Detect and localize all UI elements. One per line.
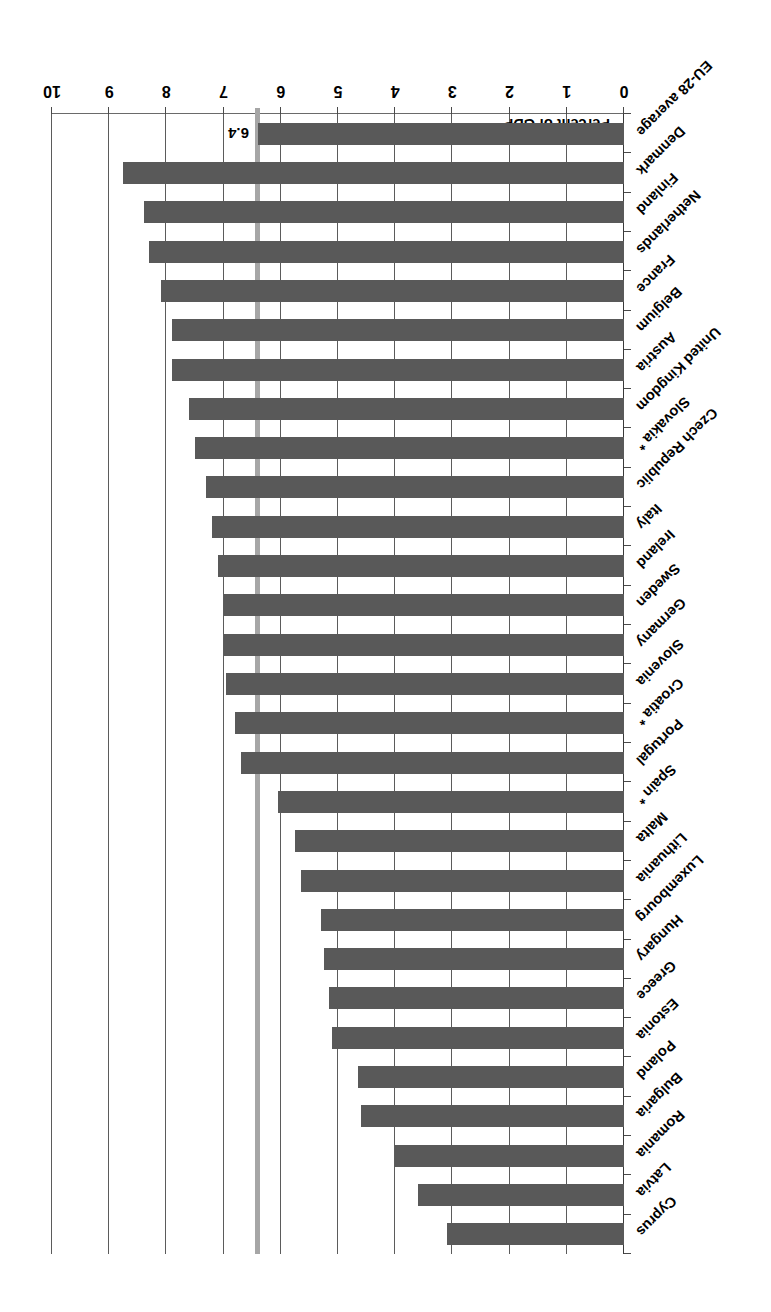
- bar: [149, 241, 624, 263]
- bar: [124, 162, 625, 184]
- value-axis-tick: [337, 107, 338, 114]
- bar: [332, 1027, 624, 1049]
- bar: [395, 1145, 624, 1167]
- bar: [358, 1066, 624, 1088]
- bar: [161, 280, 624, 302]
- value-axis-tick: [51, 107, 52, 114]
- rotated-figure-canvas: 012345678910 CyprusLatviaRomaniaBulgaria…: [0, 0, 771, 1312]
- eu-average-value-label: 6.4: [228, 125, 249, 142]
- value-axis-tick: [509, 107, 510, 114]
- value-axis-tick-label: 9: [94, 82, 124, 100]
- bar: [224, 634, 624, 656]
- bar: [218, 555, 624, 577]
- category-axis-tick: [624, 821, 631, 822]
- value-axis-tick-label: 7: [209, 82, 239, 100]
- category-label: Estonia: [633, 995, 681, 1043]
- bar: [324, 948, 624, 970]
- value-axis-tick-label: 2: [495, 82, 525, 100]
- value-axis-tick: [566, 107, 567, 114]
- bar: [212, 516, 624, 538]
- bar: [189, 398, 624, 420]
- category-axis-tick: [624, 899, 631, 900]
- bar: [172, 359, 624, 381]
- category-axis-tick: [624, 703, 631, 704]
- category-axis-tick: [624, 1174, 631, 1175]
- category-axis-tick: [624, 939, 631, 940]
- bar-chart-figure: 012345678910 CyprusLatviaRomaniaBulgaria…: [0, 0, 771, 1312]
- category-label: Italy: [633, 501, 665, 533]
- category-axis-tick: [624, 270, 631, 271]
- gridline: [108, 114, 109, 1254]
- value-axis-tick: [108, 107, 109, 114]
- category-axis-tick: [624, 781, 631, 782]
- category-axis-tick: [624, 152, 631, 153]
- value-axis-tick-label: 0: [609, 82, 639, 100]
- value-axis-tick-label: 10: [37, 82, 67, 100]
- category-axis-tick: [624, 113, 631, 114]
- category-axis-tick: [624, 1253, 631, 1254]
- category-axis-tick: [624, 388, 631, 389]
- bar: [226, 673, 624, 695]
- category-axis-tick: [624, 231, 631, 232]
- category-axis-tick: [624, 467, 631, 468]
- bar: [241, 752, 624, 774]
- category-label: Spain *: [633, 762, 679, 808]
- value-axis-tick: [394, 107, 395, 114]
- value-axis-tick: [165, 107, 166, 114]
- category-axis-tick: [624, 663, 631, 664]
- bar: [144, 201, 624, 223]
- bar: [206, 476, 624, 498]
- value-axis-tick-label: 4: [380, 82, 410, 100]
- value-axis-tick-label: 5: [323, 82, 353, 100]
- bar: [278, 791, 624, 813]
- value-axis-tick: [223, 107, 224, 114]
- value-axis-tick-label: 8: [151, 82, 181, 100]
- category-axis-tick: [624, 427, 631, 428]
- category-axis-tick: [624, 742, 631, 743]
- category-axis-tick: [624, 1135, 631, 1136]
- category-axis-tick: [624, 349, 631, 350]
- category-label: Cyprus: [633, 1193, 680, 1240]
- value-axis-tick: [451, 107, 452, 114]
- category-axis-tick: [624, 1017, 631, 1018]
- bar: [418, 1184, 624, 1206]
- bar: [172, 319, 624, 341]
- category-axis-tick: [624, 1056, 631, 1057]
- value-axis-tick-label: 1: [552, 82, 582, 100]
- bar: [295, 830, 624, 852]
- bar: [195, 437, 624, 459]
- gridline: [51, 114, 52, 1254]
- bar: [258, 123, 624, 145]
- category-axis-tick: [624, 310, 631, 311]
- category-axis-tick: [624, 545, 631, 546]
- category-axis-tick: [624, 978, 631, 979]
- value-axis-tick-label: 3: [437, 82, 467, 100]
- category-axis-tick: [624, 624, 631, 625]
- category-axis-tick: [624, 506, 631, 507]
- bar: [224, 594, 624, 616]
- category-axis-tick: [624, 192, 631, 193]
- bar: [447, 1223, 624, 1245]
- category-axis-tick: [624, 860, 631, 861]
- value-axis-tick-label: 6: [266, 82, 296, 100]
- category-axis-tick: [624, 585, 631, 586]
- category-axis-tick: [624, 1096, 631, 1097]
- value-axis-tick: [280, 107, 281, 114]
- bar: [329, 987, 624, 1009]
- bar: [361, 1105, 624, 1127]
- bar: [235, 712, 624, 734]
- bar: [321, 909, 624, 931]
- category-axis-tick: [624, 1214, 631, 1215]
- bar: [301, 870, 624, 892]
- category-label: Malta: [633, 809, 671, 847]
